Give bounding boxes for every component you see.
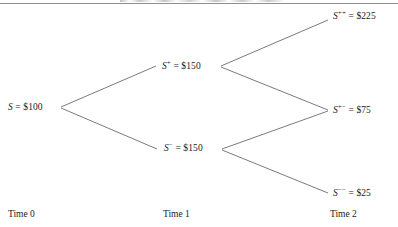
axis-label-time-2: Time 2 xyxy=(330,209,357,219)
node-value-t1-down: $150 xyxy=(183,143,202,153)
node-label-t2-downdown: S−− = $25 xyxy=(333,188,371,198)
node-label-t2-upup: S++ = $225 xyxy=(333,11,376,21)
node-value-t2-upup: $225 xyxy=(356,11,375,21)
edge-s-to-splus xyxy=(61,66,156,107)
edge-s-to-sminus xyxy=(61,108,157,149)
node-equals-t1-down: = xyxy=(173,143,183,153)
node-label-t1-up: S+ = $150 xyxy=(162,61,201,71)
edge-splus-to-splusplus xyxy=(221,20,328,66)
axis-label-time-1: Time 1 xyxy=(163,209,190,219)
edge-splus-to-splusminus xyxy=(221,67,328,110)
node-label-t0: S = $100 xyxy=(8,102,43,112)
node-value-t2-downdown: $25 xyxy=(356,188,371,198)
node-equals-t2-upup: = xyxy=(346,11,356,21)
node-equals-t1-up: = xyxy=(171,61,181,71)
node-label-t1-down: S− = $150 xyxy=(164,143,203,153)
binomial-tree-figure: S = $100 S+ = $150 S− = $150 S++ = $225 … xyxy=(0,0,398,227)
edge-sminus-to-splusminus xyxy=(222,111,328,149)
node-value-t0: $100 xyxy=(23,102,42,112)
node-label-t2-updown: S+− = $75 xyxy=(333,105,371,115)
node-superscript-t2-downdown: −− xyxy=(338,186,346,194)
axis-label-time-0: Time 0 xyxy=(8,209,35,219)
edge-sminus-to-sminusminus xyxy=(222,150,328,193)
node-equals-t2-downdown: = xyxy=(346,188,356,198)
node-superscript-t2-updown: +− xyxy=(338,103,346,111)
node-value-t2-updown: $75 xyxy=(356,105,371,115)
node-value-t1-up: $150 xyxy=(181,61,200,71)
node-equals-t2-updown: = xyxy=(346,105,356,115)
node-superscript-t2-upup: ++ xyxy=(338,9,346,17)
node-equals-t0: = xyxy=(13,102,23,112)
